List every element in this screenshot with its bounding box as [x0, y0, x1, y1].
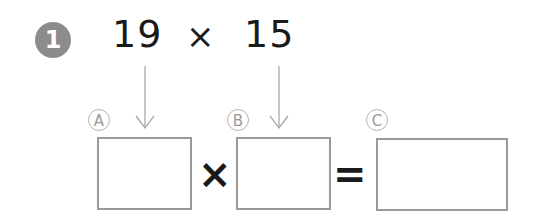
multiply-sign: ×	[198, 154, 228, 194]
problem-number-badge: 1	[35, 22, 71, 58]
answer-box-b[interactable]	[236, 137, 331, 210]
answer-box-c[interactable]	[376, 138, 508, 211]
arrow-down-icon	[269, 66, 289, 130]
label-b: B	[227, 109, 249, 131]
answer-box-a[interactable]	[97, 137, 192, 210]
label-c: C	[366, 109, 388, 131]
arrow-down-icon	[135, 66, 155, 130]
operand-a: 19	[112, 10, 162, 58]
operand-b: 15	[244, 10, 294, 58]
equals-sign: =	[333, 154, 363, 194]
label-a: A	[88, 109, 110, 131]
operator-sign: ×	[186, 12, 216, 60]
